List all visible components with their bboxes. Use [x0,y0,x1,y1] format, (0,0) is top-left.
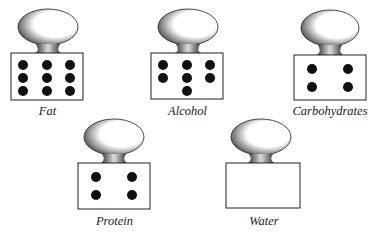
fat-figure [10,5,85,105]
nutrient-water [225,115,303,215]
nutrient-alcohol [150,5,225,105]
label-fat: Fat [10,104,85,119]
nutrient-carbohydrates [293,7,368,107]
water-figure [225,115,303,215]
alcohol-figure [150,5,225,105]
carbohydrates-figure [293,7,368,107]
label-protein: Protein [77,214,152,229]
label-alcohol: Alcohol [150,104,225,119]
nutrient-protein [77,115,152,215]
nutrient-fat [10,5,85,105]
protein-figure [77,115,152,215]
label-water: Water [225,214,303,229]
